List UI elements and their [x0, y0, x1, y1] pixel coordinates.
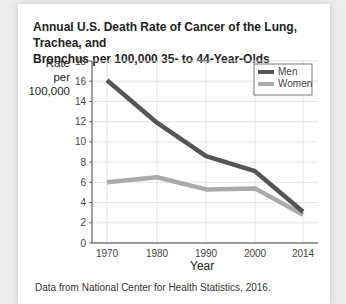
legend-label-women: Women	[278, 78, 312, 89]
data-lines	[107, 80, 303, 214]
x-tick-label: 1990	[195, 248, 218, 259]
x-tick-label: 2014	[292, 248, 315, 259]
series-line-women	[107, 177, 303, 214]
y-tick-label: 18	[75, 56, 87, 67]
x-tick-label: 2000	[244, 248, 267, 259]
x-tick-label: 1980	[146, 248, 169, 259]
y-tick-label: 2	[80, 217, 86, 228]
y-tick-label: 14	[75, 96, 87, 107]
x-tick-label: 1970	[96, 248, 119, 259]
legend-swatch-men	[258, 70, 274, 74]
y-tick-label: 6	[80, 177, 86, 188]
source-note: Data from National Center for Health Sta…	[35, 282, 271, 293]
y-tick-label: 10	[75, 136, 87, 147]
legend-label-men: Men	[278, 66, 297, 77]
y-tick-label: 12	[75, 116, 87, 127]
y-tick-label: 8	[80, 157, 86, 168]
y-tick-label: 16	[75, 76, 87, 87]
x-axis-label: Year	[190, 259, 214, 273]
y-tick-label: 0	[80, 238, 86, 249]
legend: Men Women	[254, 64, 312, 95]
legend-swatch-women	[258, 82, 274, 86]
y-tick-label: 4	[80, 197, 86, 208]
series-line-men	[107, 80, 303, 211]
